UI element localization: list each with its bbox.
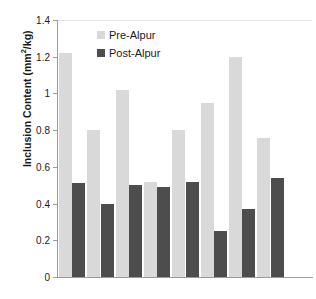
bar (144, 182, 157, 277)
bar (271, 178, 284, 277)
y-axis-tick-label: 0.4 (10, 198, 50, 209)
bar (157, 187, 170, 277)
bar (87, 130, 100, 277)
y-axis-tick-label: 1.2 (10, 51, 50, 62)
plot-area (57, 20, 313, 278)
chart-legend: Pre-AlpurPost-Alpur (97, 27, 160, 63)
y-axis-tick-label: 0.2 (10, 235, 50, 246)
legend-swatch-icon (97, 49, 105, 57)
legend-label: Pre-Alpur (109, 29, 155, 41)
legend-label: Post-Alpur (109, 47, 160, 59)
legend-item: Pre-Alpur (97, 27, 160, 43)
y-axis-tick-label: 0.6 (10, 161, 50, 172)
bar (214, 231, 227, 277)
y-axis-title-prefix: Inclusion Content (mm (21, 53, 33, 167)
caption-strip (0, 288, 316, 299)
legend-item: Post-Alpur (97, 45, 160, 61)
y-axis-tick-label: 1.4 (10, 15, 50, 26)
bar (242, 209, 255, 277)
bar (72, 183, 85, 277)
bar (186, 182, 199, 277)
y-axis-tick-label: 0.8 (10, 125, 50, 136)
bar (129, 185, 142, 277)
bar (229, 57, 242, 277)
bar (201, 103, 214, 277)
bar (172, 130, 185, 277)
y-axis-tick-label: 1 (10, 88, 50, 99)
bar (257, 138, 270, 278)
bar-chart: Inclusion Content (mm2/kg) 00.20.40.60.8… (0, 0, 316, 299)
bar (59, 53, 72, 277)
y-axis-tick-label: 0 (10, 272, 50, 283)
legend-swatch-icon (97, 31, 105, 39)
bar (101, 204, 114, 277)
y-axis-title-suffix: /kg) (21, 30, 33, 49)
bar (116, 90, 129, 277)
